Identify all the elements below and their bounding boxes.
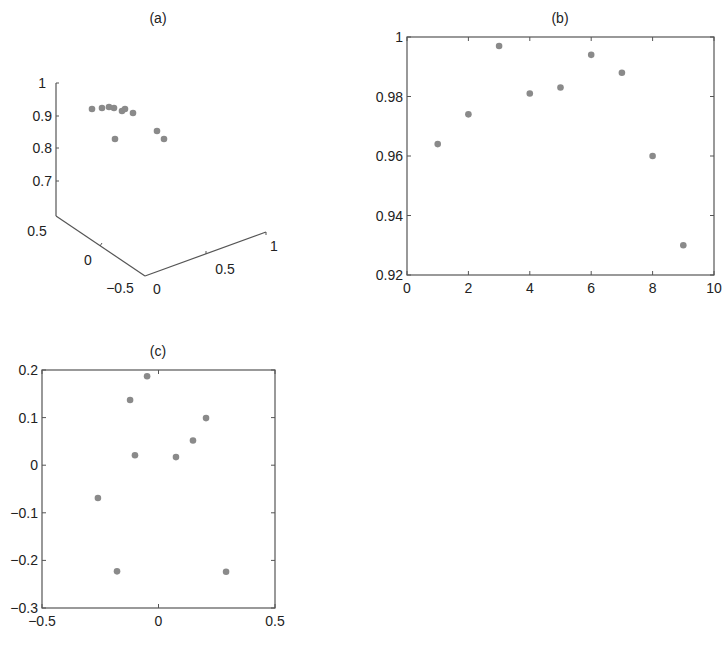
data-points bbox=[95, 373, 230, 575]
data-point bbox=[557, 84, 564, 91]
data-point bbox=[527, 90, 534, 97]
svg-text:0.5: 0.5 bbox=[27, 223, 47, 239]
figure: (a) 1 0.9 0.8 0.7 0.5 0 −0.5 0 0.5 1 bbox=[0, 0, 726, 647]
data-point bbox=[89, 106, 96, 113]
x-tick-label: 0 bbox=[155, 613, 163, 629]
panel-c-title: (c) bbox=[150, 343, 166, 359]
svg-text:1: 1 bbox=[270, 238, 278, 254]
data-point bbox=[127, 397, 134, 404]
y-tick-label: 0.94 bbox=[376, 208, 403, 224]
data-point bbox=[680, 242, 687, 249]
data-point bbox=[649, 153, 656, 160]
y-tick-label: 0.98 bbox=[376, 89, 403, 105]
panel-c-scatter: (c) −0.500.5−0.3−0.2−0.100.10.2 bbox=[10, 343, 285, 629]
data-point bbox=[130, 110, 137, 117]
svg-text:0: 0 bbox=[84, 252, 92, 268]
panel-b-scatter: (b) 02468100.920.940.960.981 bbox=[376, 10, 722, 296]
svg-text:0.8: 0.8 bbox=[33, 140, 53, 156]
y-tick-label: −0.3 bbox=[10, 600, 38, 616]
data-point bbox=[111, 105, 118, 112]
y-tick-label: 0.1 bbox=[19, 410, 39, 426]
y-tick-labels: 0 0.5 1 bbox=[153, 238, 278, 297]
svg-text:0.9: 0.9 bbox=[33, 108, 53, 124]
x-tick-label: 6 bbox=[587, 280, 595, 296]
x-tick-label: 0.5 bbox=[265, 613, 285, 629]
y-tick-label: 0.96 bbox=[376, 148, 403, 164]
data-point bbox=[434, 141, 441, 148]
panel-b-title: (b) bbox=[551, 10, 568, 26]
y-tick-label: 0.2 bbox=[19, 362, 39, 378]
panel-a-3d-scatter: (a) 1 0.9 0.8 0.7 0.5 0 −0.5 0 0.5 1 bbox=[27, 10, 278, 297]
data-point bbox=[99, 105, 106, 112]
x-tick-label: 2 bbox=[465, 280, 473, 296]
data-points bbox=[89, 104, 168, 143]
data-point bbox=[154, 128, 161, 135]
data-points bbox=[434, 43, 686, 249]
data-point bbox=[496, 43, 503, 50]
y-tick-label: 1 bbox=[395, 29, 403, 45]
x-tick-label: 0 bbox=[403, 280, 411, 296]
z-tick-labels: 1 0.9 0.8 0.7 bbox=[33, 75, 53, 189]
data-point bbox=[619, 69, 626, 76]
data-point bbox=[588, 52, 595, 59]
svg-text:0: 0 bbox=[153, 281, 161, 297]
x-tick-label: 4 bbox=[526, 280, 534, 296]
data-point bbox=[112, 136, 119, 143]
ticks-and-labels: −0.500.5−0.3−0.2−0.100.10.2 bbox=[10, 362, 285, 629]
data-point bbox=[122, 106, 129, 113]
plot-frame bbox=[407, 37, 714, 275]
data-point bbox=[203, 415, 210, 422]
data-point bbox=[223, 569, 230, 576]
x-tick-label: 10 bbox=[706, 280, 722, 296]
y-tick-label: 0.92 bbox=[376, 267, 403, 283]
data-point bbox=[161, 136, 168, 143]
data-point bbox=[190, 437, 197, 444]
data-point bbox=[114, 568, 121, 575]
data-point bbox=[95, 495, 102, 502]
svg-text:−0.5: −0.5 bbox=[106, 280, 134, 296]
data-point bbox=[465, 111, 472, 118]
x-tick-label: 8 bbox=[649, 280, 657, 296]
ticks-and-labels: 02468100.920.940.960.981 bbox=[376, 29, 722, 296]
svg-text:1: 1 bbox=[38, 75, 46, 91]
data-point bbox=[132, 452, 139, 459]
y-tick-label: −0.1 bbox=[10, 505, 38, 521]
y-tick-label: −0.2 bbox=[10, 552, 38, 568]
panel-a-title: (a) bbox=[149, 10, 166, 26]
data-point bbox=[173, 454, 180, 461]
data-point bbox=[144, 373, 151, 380]
x-tick-labels: 0.5 0 −0.5 bbox=[27, 223, 134, 296]
plot-frame bbox=[42, 370, 275, 608]
svg-text:0.5: 0.5 bbox=[215, 261, 235, 277]
svg-text:0.7: 0.7 bbox=[33, 173, 53, 189]
y-tick-label: 0 bbox=[30, 457, 38, 473]
